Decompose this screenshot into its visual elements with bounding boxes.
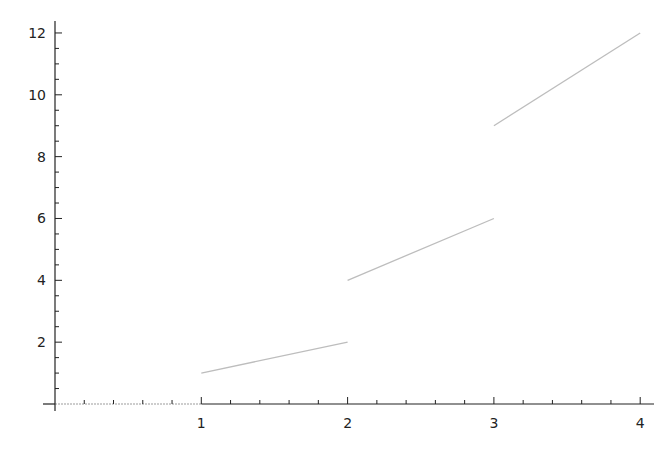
y-tick-label: 12 (28, 25, 46, 41)
y-tick-label: 2 (37, 334, 46, 350)
x-tick-label: 2 (343, 415, 352, 431)
x-tick-label: 4 (636, 415, 645, 431)
line-segment (494, 33, 640, 126)
x-tick-label: 1 (197, 415, 206, 431)
line-segment (348, 218, 494, 280)
y-tick-label: 8 (37, 149, 46, 165)
y-tick-label: 10 (28, 87, 46, 103)
x-tick-label: 3 (489, 415, 498, 431)
y-axis-ticks: 24681012 (28, 25, 62, 389)
y-tick-label: 4 (37, 272, 46, 288)
x-axis-ticks: 1234 (84, 397, 644, 431)
y-tick-label: 6 (37, 210, 46, 226)
line-segment (201, 342, 347, 373)
data-lines (55, 33, 640, 404)
axes (43, 21, 654, 411)
chart: 1234 24681012 (0, 0, 670, 452)
